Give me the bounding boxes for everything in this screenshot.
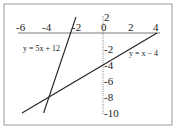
y-tick-label: -4 bbox=[104, 59, 114, 71]
equation-label-x-minus-4: y = x − 4 bbox=[129, 49, 158, 58]
x-tick-label: 2 bbox=[128, 21, 134, 33]
x-tick-label: -4 bbox=[42, 21, 52, 33]
y-tick-label: -8 bbox=[104, 91, 114, 103]
y-tick-label: 2 bbox=[104, 11, 110, 23]
x-tick-label: -6 bbox=[16, 21, 26, 33]
y-tick-label: -10 bbox=[104, 107, 119, 119]
line-chart: -6 -4 -2 0 2 4 2 -2 -4 -6 -8 -10 y = 5x … bbox=[0, 0, 176, 135]
equation-label-5x-plus-12: y = 5x + 12 bbox=[23, 44, 60, 53]
y-tick-label: -2 bbox=[104, 43, 113, 55]
x-tick-label: 4 bbox=[153, 21, 159, 33]
x-tick-label: -2 bbox=[72, 21, 81, 33]
chart-frame bbox=[4, 4, 172, 125]
y-tick-label: -6 bbox=[104, 75, 114, 87]
